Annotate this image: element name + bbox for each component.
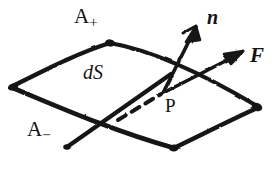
label-a-minus: A− — [27, 119, 51, 143]
lower-sheet-cross-edge — [67, 74, 171, 147]
label-a-plus: A+ — [74, 6, 98, 30]
label-force-vector: F — [250, 45, 264, 66]
label-a-plus-base: A — [74, 4, 89, 28]
label-a-plus-sign: + — [89, 14, 98, 30]
label-a-minus-base: A — [27, 117, 42, 141]
label-a-minus-sign: − — [42, 127, 51, 143]
edge-bottom-to-right — [174, 108, 257, 148]
label-area-element: dS — [83, 62, 103, 82]
figure-canvas — [0, 0, 279, 183]
cross-edge-line — [67, 74, 171, 147]
surface-element-figure: A+ A− dS P n F — [0, 0, 279, 183]
upper-sheet-boundary — [13, 43, 257, 106]
label-point-p: P — [165, 96, 176, 115]
label-normal-vector: n — [207, 7, 218, 27]
vertex-cross-edge-end — [63, 144, 71, 150]
